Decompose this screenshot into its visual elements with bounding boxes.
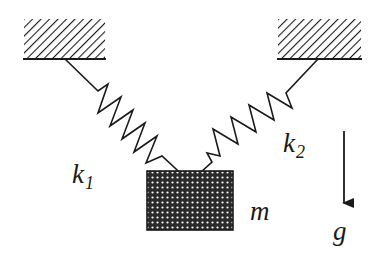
spring-right	[190, 59, 318, 182]
label-k1: k1	[72, 159, 94, 193]
spring-mass-diagram: k1 k2 m g	[0, 0, 377, 255]
label-gravity: g	[333, 216, 347, 246]
left-ceiling-support	[23, 19, 106, 59]
label-k2: k2	[283, 128, 305, 162]
right-ceiling-support	[277, 19, 362, 59]
label-mass: m	[250, 196, 270, 226]
mass-block	[147, 171, 233, 230]
